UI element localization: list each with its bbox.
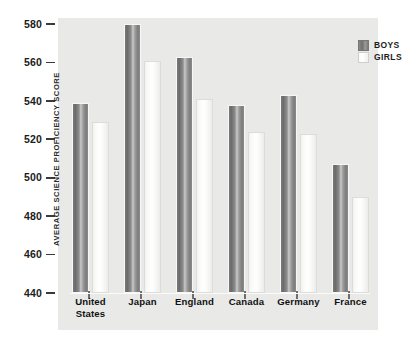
bar-girls[interactable] (248, 132, 265, 293)
x-axis-label-line: States (58, 308, 123, 320)
bar-boys[interactable] (176, 57, 193, 293)
y-tick: 580 (0, 18, 58, 30)
bar-group (72, 103, 109, 293)
bar-boys[interactable] (280, 95, 297, 293)
y-axis: 580560540520500480460440 (0, 0, 58, 358)
legend-label-boys: BOYS (374, 40, 400, 50)
bar-girls[interactable] (92, 122, 109, 293)
legend: BOYS GIRLS (358, 40, 402, 62)
y-tick-label: 560 (24, 57, 42, 68)
bar-boys[interactable] (72, 103, 89, 293)
bar-group (332, 164, 369, 293)
y-axis-title: AVERAGE SCIENCE PROFICIENCY SCORE (52, 96, 64, 246)
y-tick-mark (46, 292, 55, 294)
y-tick-label: 480 (24, 211, 42, 222)
bar-girls[interactable] (144, 61, 161, 293)
boys-swatch-icon (358, 40, 369, 51)
bar-group (228, 105, 265, 293)
y-tick: 480 (0, 210, 58, 222)
bar-girls[interactable] (196, 99, 213, 293)
bar-boys[interactable] (124, 24, 141, 293)
bars-layer (58, 18, 378, 330)
legend-item-girls: GIRLS (358, 52, 402, 62)
x-axis-label: France (318, 296, 383, 308)
y-tick-mark (46, 62, 55, 64)
bar-boys[interactable] (228, 105, 245, 293)
plot-area: BOYS GIRLS (58, 18, 378, 330)
legend-item-boys: BOYS (358, 40, 402, 50)
y-tick-label: 500 (24, 172, 42, 183)
x-axis-labels: UnitedStatesJapanEnglandCanadaGermanyFra… (58, 296, 378, 342)
y-tick: 500 (0, 172, 58, 184)
y-tick: 440 (0, 287, 58, 299)
y-tick: 560 (0, 56, 58, 68)
x-axis-label-line: France (318, 296, 383, 308)
y-tick-label: 580 (24, 19, 42, 30)
baseline (70, 293, 370, 295)
bar-group (280, 95, 317, 293)
y-tick: 520 (0, 133, 58, 145)
girls-swatch-icon (358, 52, 369, 63)
bar-girls[interactable] (300, 134, 317, 293)
y-tick-label: 540 (24, 96, 42, 107)
bar-boys[interactable] (332, 164, 349, 293)
y-tick-mark (46, 23, 55, 25)
y-tick-label: 520 (24, 134, 42, 145)
y-tick: 540 (0, 95, 58, 107)
y-tick-mark (46, 254, 55, 256)
bar-group (124, 24, 161, 293)
bar-group (176, 57, 213, 293)
y-tick-label: 440 (24, 288, 42, 299)
bar-girls[interactable] (352, 197, 369, 293)
legend-label-girls: GIRLS (374, 52, 402, 62)
y-tick: 460 (0, 249, 58, 261)
y-tick-label: 460 (24, 249, 42, 260)
